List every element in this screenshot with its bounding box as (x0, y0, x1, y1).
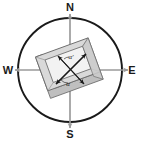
angle-label-alpha: α (66, 80, 70, 88)
compass-label-west: W (3, 64, 14, 76)
compass-label-east: E (128, 64, 135, 76)
compass-label-north: N (66, 1, 74, 13)
angle-label-alpha-prime: α′ (68, 53, 74, 61)
compass-orientation-diagram: α′ α N S W E (0, 0, 141, 144)
compass-diagram-canvas: α′ α N S W E (0, 0, 141, 144)
compass-label-south: S (66, 128, 73, 140)
